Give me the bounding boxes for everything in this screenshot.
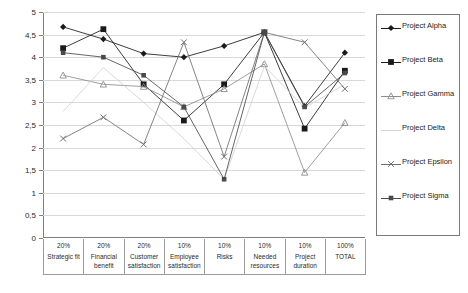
category-label: Project duration: [286, 253, 325, 270]
legend-key-icon: [380, 56, 402, 68]
data-point: [181, 54, 187, 60]
data-point: [302, 105, 307, 110]
x-axis-category-cell: 10%Employee satisfaction: [165, 239, 205, 275]
category-label: Risks: [217, 253, 233, 262]
y-tick-mark: [39, 215, 43, 216]
data-point: [61, 50, 66, 55]
legend-label: Project Delta: [402, 123, 445, 133]
x-axis-category-cell: 10%Needed resources: [245, 239, 285, 275]
legend-key-icon: [380, 158, 402, 170]
x-axis-category-cell: 20%Financial benefit: [84, 239, 124, 275]
data-point: [100, 114, 106, 120]
data-point: [141, 73, 146, 78]
legend-item-project-alpha[interactable]: Project Alpha: [380, 21, 456, 55]
data-point: [60, 45, 66, 51]
data-point: [302, 126, 308, 132]
x-axis-category-cell: 20%Customer satisfaction: [125, 239, 165, 275]
category-weight: 10%: [178, 241, 191, 250]
data-point: [181, 118, 187, 124]
legend-label: Project Beta: [402, 55, 443, 65]
data-point: [60, 136, 66, 142]
legend-item-project-gamma[interactable]: Project Gamma: [380, 89, 456, 123]
x-axis-category-cell: 20%Strategic fit: [44, 239, 84, 275]
y-tick-mark: [39, 12, 43, 13]
y-tick-label: 0,5: [25, 211, 36, 220]
legend-label: Project Gamma: [402, 89, 454, 99]
data-point: [262, 30, 267, 35]
legend-label: Project Sigma: [402, 191, 449, 201]
data-point: [141, 142, 147, 148]
category-label: Strategic fit: [47, 253, 80, 262]
legend-label: Project Alpha: [402, 21, 446, 31]
legend-marker-square-small-icon: [385, 192, 397, 204]
data-point: [181, 39, 187, 45]
x-axis-category-cell: 100%TOTAL: [326, 239, 366, 275]
series-project-epsilon: [60, 29, 348, 159]
data-point: [60, 72, 66, 78]
y-tick-mark: [39, 80, 43, 81]
y-tick-label: 0: [32, 234, 36, 243]
y-tick-label: 1: [32, 188, 36, 197]
y-tick-label: 3: [32, 98, 36, 107]
data-point: [342, 86, 348, 92]
y-tick-mark: [39, 57, 43, 58]
legend-key-icon: [380, 90, 402, 102]
category-label: Needed resources: [245, 253, 284, 270]
legend-item-project-sigma[interactable]: Project Sigma: [380, 191, 456, 225]
x-axis-category-cell: 10%Risks: [205, 239, 245, 275]
category-label: Financial benefit: [84, 253, 123, 270]
data-point: [101, 55, 106, 60]
category-weight: 20%: [138, 241, 151, 250]
data-point: [221, 154, 227, 160]
y-tick-label: 2: [32, 143, 36, 152]
y-tick-mark: [39, 148, 43, 149]
chart-legend: Project AlphaProject BetaProject GammaPr…: [376, 14, 460, 236]
y-tick-mark: [39, 102, 43, 103]
legend-item-project-epsilon[interactable]: Project Epsilon: [380, 157, 456, 191]
x-axis-category-table: 20%Strategic fit20%Financial benefit20%C…: [43, 239, 366, 275]
y-tick-label: 1,5: [25, 166, 36, 175]
legend-key-icon: [380, 124, 402, 136]
legend-item-project-delta[interactable]: Project Delta: [380, 123, 456, 157]
plot-area: [43, 12, 365, 238]
legend-key-icon: [380, 22, 402, 34]
chart-screenshot: 00,511,522,533,544,55 20%Strategic fit20…: [0, 0, 468, 293]
y-tick-label: 2,5: [25, 121, 36, 130]
series-line: [63, 32, 345, 156]
category-weight: 20%: [57, 241, 70, 250]
y-tick-label: 3,5: [25, 75, 36, 84]
category-weight: 100%: [337, 241, 354, 250]
category-label: TOTAL: [335, 253, 355, 262]
series-layer: [43, 12, 365, 238]
data-point: [100, 36, 106, 42]
y-tick-mark: [39, 170, 43, 171]
legend-marker-diamond-icon: [385, 22, 397, 34]
legend-label: Project Epsilon: [402, 157, 452, 167]
data-point: [222, 177, 227, 182]
data-point: [141, 50, 147, 56]
data-point: [182, 105, 187, 110]
y-tick-label: 5: [32, 8, 36, 17]
legend-marker-cross-icon: [385, 158, 397, 170]
category-weight: 20%: [97, 241, 110, 250]
y-tick-mark: [39, 193, 43, 194]
x-axis-category-cell: 10%Project duration: [286, 239, 326, 275]
y-tick-label: 4: [32, 53, 36, 62]
category-weight: 10%: [218, 241, 231, 250]
legend-marker-none-icon: [385, 124, 397, 136]
y-tick-mark: [39, 35, 43, 36]
legend-marker-square-icon: [385, 56, 397, 68]
data-point: [221, 43, 227, 49]
y-tick-label: 4,5: [25, 30, 36, 39]
y-tick-mark: [39, 125, 43, 126]
data-point: [343, 71, 348, 76]
legend-item-project-beta[interactable]: Project Beta: [380, 55, 456, 89]
category-weight: 10%: [299, 241, 312, 250]
data-point: [302, 39, 308, 45]
legend-marker-triangle-icon: [385, 90, 397, 102]
series-project-alpha: [60, 24, 348, 109]
category-weight: 10%: [258, 241, 271, 250]
data-point: [342, 120, 348, 126]
category-label: Customer satisfaction: [125, 253, 164, 270]
legend-key-icon: [380, 192, 402, 204]
